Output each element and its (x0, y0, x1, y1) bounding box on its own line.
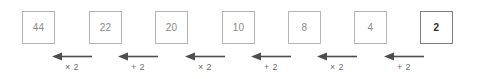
number-box-highlighted: 2 (420, 11, 453, 44)
operation-edge: × 2 (185, 52, 225, 74)
number-box-value: 10 (233, 23, 245, 33)
operation-edge: + 2 (251, 52, 291, 74)
operation-edge: × 2 (317, 52, 357, 74)
operation-label: × 2 (52, 61, 92, 73)
operation-label: × 2 (317, 61, 357, 73)
number-box-value: 44 (33, 23, 45, 33)
number-box: 8 (288, 11, 321, 44)
number-box-value: 20 (166, 23, 178, 33)
operation-edge: + 2 (384, 52, 424, 74)
number-box-value: 8 (302, 23, 308, 33)
number-box: 44 (22, 11, 55, 44)
number-box: 22 (89, 11, 122, 44)
operation-edge: × 2 (52, 52, 92, 74)
number-box-value: 2 (434, 23, 440, 33)
operation-label: + 2 (384, 61, 424, 73)
number-chain-diagram: 44 22 20 10 8 4 2 × 2 + 2 × 2 (0, 0, 482, 79)
number-box: 10 (222, 11, 255, 44)
number-box: 4 (354, 11, 387, 44)
operation-label: × 2 (185, 61, 225, 73)
arrow-left-icon (317, 52, 357, 61)
number-box: 20 (155, 11, 188, 44)
arrow-left-icon (118, 52, 158, 61)
number-box-value: 4 (368, 23, 374, 33)
arrow-left-icon (52, 52, 92, 61)
operation-edge: + 2 (118, 52, 158, 74)
arrow-left-icon (251, 52, 291, 61)
operation-label: + 2 (118, 61, 158, 73)
arrow-left-icon (185, 52, 225, 61)
arrow-left-icon (384, 52, 424, 61)
operation-label: + 2 (251, 61, 291, 73)
number-box-value: 22 (100, 23, 112, 33)
